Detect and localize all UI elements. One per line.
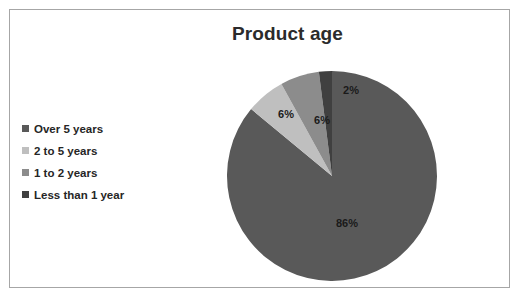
legend-swatch-less-than-1-year [22,191,29,198]
pie-slice-group [227,71,437,281]
chart-legend: Over 5 years 2 to 5 years 1 to 2 years L… [22,118,172,206]
chart-title: Product age [10,23,509,45]
legend-label-1-to-2-years: 1 to 2 years [34,167,97,179]
pie-data-label: 2% [343,84,359,96]
legend-item-over-5-years[interactable]: Over 5 years [22,118,172,139]
pie-data-label: 6% [314,114,330,126]
chart-frame: Product age Over 5 years 2 to 5 years 1 … [9,9,510,288]
pie-data-label: 6% [278,108,294,120]
legend-item-2-to-5-years[interactable]: 2 to 5 years [22,140,172,161]
legend-swatch-over-5-years [22,125,29,132]
legend-label-2-to-5-years: 2 to 5 years [34,145,97,157]
legend-label-over-5-years: Over 5 years [34,123,103,135]
pie-chart: 86%6%6%2% [218,62,446,290]
legend-item-less-than-1-year[interactable]: Less than 1 year [22,184,172,205]
legend-label-less-than-1-year: Less than 1 year [34,189,124,201]
pie-chart-svg: 86%6%6%2% [218,62,446,290]
legend-swatch-2-to-5-years [22,147,29,154]
legend-item-1-to-2-years[interactable]: 1 to 2 years [22,162,172,183]
pie-data-label: 86% [336,217,358,229]
chart-title-text: Product age [232,23,343,44]
legend-swatch-1-to-2-years [22,169,29,176]
